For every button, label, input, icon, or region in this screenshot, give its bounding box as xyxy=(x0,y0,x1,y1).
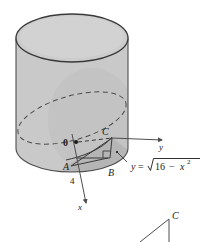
curve-equation: y = 16 − x 2 xyxy=(130,158,200,172)
figure-canvas: 0 A B C y x 4 y = 16 − x 2 C xyxy=(0,0,208,242)
inset-hypotenuse xyxy=(140,219,169,242)
equation-minus: − xyxy=(169,161,175,172)
equation-equals: = xyxy=(138,161,144,172)
leader-anchor-dot xyxy=(116,151,118,153)
equation-radicand-variable: x xyxy=(179,161,185,172)
point-c-label: C xyxy=(102,126,109,137)
point-b-label: B xyxy=(108,167,114,178)
equation-lhs: y xyxy=(130,161,136,172)
cylinder-cross-section-figure: 0 A B C y x 4 y = 16 − x 2 C xyxy=(0,0,208,242)
cylinder-top-highlight xyxy=(20,16,124,58)
inset-point-c-label: C xyxy=(172,210,179,221)
point-a-label: A xyxy=(62,161,70,172)
equation-radicand-number: 16 xyxy=(155,161,165,172)
equation-exponent: 2 xyxy=(187,158,191,166)
inset-partial-figure: C xyxy=(140,210,179,242)
axis-y-label: y xyxy=(158,142,163,152)
radius-value-label: 4 xyxy=(70,176,75,186)
axis-x-label: x xyxy=(77,202,82,212)
origin-label: 0 xyxy=(63,137,68,148)
